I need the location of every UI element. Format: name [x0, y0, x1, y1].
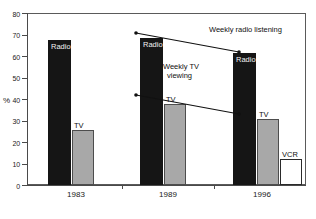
bar-chart: % 0 10 20 30 40 50 60 70 80 1983 1989 19… — [0, 0, 316, 219]
bar-label-1989-radio: Radio — [143, 41, 163, 49]
annotation-weekly-tv-viewing-line1: Weekly TV — [163, 62, 199, 71]
bar-1989-tv[interactable]: TV — [164, 104, 186, 185]
y-tick-label-0: 0 — [16, 182, 20, 189]
y-tick-label-20: 20 — [13, 139, 20, 146]
x-axis-line — [27, 185, 306, 186]
bar-1983-radio[interactable]: Radio — [48, 40, 71, 185]
y-tick-label-60: 60 — [13, 53, 20, 60]
y-tick-label-50: 50 — [13, 75, 20, 82]
bar-1983-tv[interactable]: TV — [72, 130, 94, 185]
y-tick-label-40: 40 — [13, 96, 20, 103]
bar-label-1983-radio: Radio — [51, 43, 71, 51]
x-axis-label-1983: 1983 — [67, 190, 85, 199]
bars-layer: Radio TV Radio TV Radio TV VCR — [28, 14, 305, 185]
y-axis-title: % — [3, 96, 10, 105]
bar-label-1996-vcr: VCR — [282, 151, 298, 159]
bar-label-1983-tv: TV — [74, 122, 84, 130]
annotation-weekly-radio-listening: Weekly radio listening — [209, 25, 282, 34]
bar-1989-radio[interactable]: Radio — [140, 38, 163, 185]
annotation-weekly-tv-viewing-line2: viewing — [167, 71, 192, 80]
bar-1996-radio[interactable]: Radio — [233, 53, 256, 185]
x-axis-label-1996: 1996 — [253, 190, 271, 199]
y-tick-label-80: 80 — [13, 10, 20, 17]
x-tick-1 — [122, 185, 123, 189]
x-tick-2 — [214, 185, 215, 189]
y-tick-label-70: 70 — [13, 32, 20, 39]
bar-label-1996-tv: TV — [259, 111, 269, 119]
x-axis-label-1989: 1989 — [159, 190, 177, 199]
bar-1996-vcr[interactable]: VCR — [280, 159, 302, 185]
bar-label-1996-radio: Radio — [236, 56, 256, 64]
bar-label-1989-tv: TV — [166, 96, 176, 104]
y-tick-label-10: 10 — [13, 161, 20, 168]
bar-1996-tv[interactable]: TV — [257, 119, 279, 185]
y-tick-label-30: 30 — [13, 118, 20, 125]
